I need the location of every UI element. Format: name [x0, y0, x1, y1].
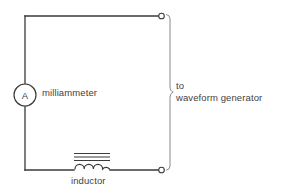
circuit-diagram: A milliammeter inductor to waveform gene…: [0, 0, 292, 194]
terminal-bottom-right: [159, 167, 165, 173]
milliammeter-label: milliammeter: [42, 87, 97, 99]
milliammeter-letter: A: [22, 90, 29, 101]
terminal-top-right: [159, 13, 165, 19]
inductor-label: inductor: [71, 175, 106, 187]
waveform-generator-label-line2: waveform generator: [176, 92, 262, 104]
generator-bracket: [167, 15, 174, 171]
waveform-generator-label: to waveform generator: [176, 80, 262, 103]
inductor-coil: [75, 164, 110, 169]
waveform-generator-label-line1: to: [176, 80, 262, 92]
